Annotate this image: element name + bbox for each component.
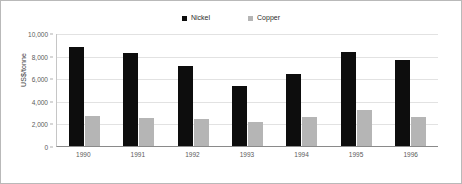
bar-group [341, 34, 372, 146]
bar-group [395, 34, 426, 146]
bar-nickel-1993[interactable] [232, 86, 247, 146]
bar-copper-1991[interactable] [139, 118, 154, 146]
bar-nickel-1996[interactable] [395, 60, 410, 146]
legend-item-nickel[interactable]: Nickel [182, 14, 210, 22]
y-axis-tick-mark [50, 34, 53, 35]
x-axis-tick-label: 1991 [121, 151, 155, 158]
bar-copper-1996[interactable] [411, 117, 426, 146]
legend-label-nickel: Nickel [191, 14, 210, 22]
bar-group [69, 34, 100, 146]
x-axis-tick-labels: 1990199119921993199419951996 [56, 151, 438, 158]
bar-copper-1994[interactable] [302, 117, 317, 146]
bar-copper-1992[interactable] [194, 119, 209, 146]
y-axis-tick-label: 4,000 [32, 98, 48, 105]
x-axis-tick-label: 1990 [66, 151, 100, 158]
x-axis-tick-label: 1992 [175, 151, 209, 158]
y-axis-tick-label: 10,000 [28, 31, 48, 38]
chart-frame: Nickel Copper US$/tonne 02,0004,0006,000… [0, 0, 462, 184]
y-axis-tick-label: 2,000 [32, 121, 48, 128]
bar-nickel-1991[interactable] [123, 53, 138, 146]
y-axis-tick-mark [50, 101, 53, 102]
x-axis-tick-label: 1996 [394, 151, 428, 158]
bar-group [286, 34, 317, 146]
x-axis-tick-label: 1995 [339, 151, 373, 158]
bar-group [178, 34, 209, 146]
plot-area [56, 34, 438, 147]
x-axis-tick-label: 1993 [230, 151, 264, 158]
bar-nickel-1992[interactable] [178, 66, 193, 146]
y-axis-tick-mark [50, 56, 53, 57]
x-axis-tick-label: 1994 [285, 151, 319, 158]
y-axis-tick-label: 8,000 [32, 53, 48, 60]
bar-copper-1990[interactable] [85, 116, 100, 147]
bar-group [232, 34, 263, 146]
legend-label-copper: Copper [257, 14, 280, 22]
y-axis-tick-mark [50, 147, 53, 148]
legend-item-copper[interactable]: Copper [248, 14, 280, 22]
bar-copper-1995[interactable] [357, 110, 372, 146]
y-axis-tick-label: 0 [44, 144, 48, 151]
chart-legend: Nickel Copper [1, 14, 461, 22]
y-axis-tick-mark [50, 79, 53, 80]
y-axis-tick-label: 6,000 [32, 76, 48, 83]
bar-nickel-1990[interactable] [69, 47, 84, 146]
square-swatch-icon [248, 16, 253, 21]
y-axis-tick-mark [50, 124, 53, 125]
bar-nickel-1995[interactable] [341, 52, 356, 146]
square-swatch-icon [182, 16, 187, 21]
bar-groups [57, 34, 438, 146]
plot-area-wrapper [56, 34, 438, 147]
y-axis-tick-labels: 02,0004,0006,0008,00010,000 [1, 34, 53, 147]
bar-nickel-1994[interactable] [286, 74, 301, 146]
bar-copper-1993[interactable] [248, 122, 263, 146]
bar-group [123, 34, 154, 146]
